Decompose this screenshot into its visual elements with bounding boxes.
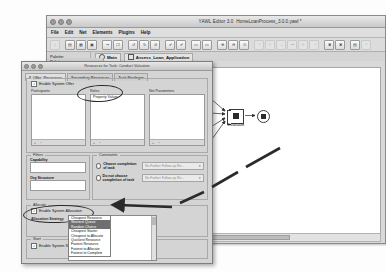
align-left-icon[interactable]: ⊢: [287, 40, 297, 50]
radio-icon: [96, 163, 101, 169]
save-icon[interactable]: ▦: [76, 40, 86, 50]
chevron-down-icon: ▾: [199, 164, 201, 168]
start-group-label: Start: [31, 237, 43, 241]
do-not-choose-completion-label: Do not choose completion of task: [103, 174, 139, 182]
remove-icon[interactable]: −: [40, 141, 42, 145]
toolbar-separator: [320, 41, 323, 49]
toolbar-separator: [124, 41, 127, 49]
zoom-reset-icon[interactable]: ⊙: [239, 40, 249, 50]
radio-icon: [96, 175, 101, 181]
offer-group-label: Offer: [31, 76, 43, 80]
align-middle-icon[interactable]: ┼: [265, 40, 275, 50]
zoom-out-icon[interactable]: ⊖: [228, 40, 238, 50]
decompose-icon[interactable]: ✖: [324, 40, 334, 50]
align-right-icon[interactable]: ⊣: [309, 40, 319, 50]
toolbar-separator: [213, 41, 216, 49]
redo-icon[interactable]: ↻: [139, 40, 149, 50]
editor-title-bar: YAWL Editor 3.0 HomeLoanProcess_3.0.0.ya…: [47, 16, 385, 28]
choose-completion-radio[interactable]: Choose completion of task: [96, 162, 139, 170]
menu-help[interactable]: Help: [141, 30, 151, 35]
menu-plugins[interactable]: Plugins: [119, 30, 135, 35]
copy-icon[interactable]: ❐: [113, 40, 123, 50]
toolbar-separator: [187, 41, 190, 49]
scrollbar-thumb[interactable]: [152, 217, 156, 225]
new-net-icon[interactable]: ▭: [191, 40, 201, 50]
choose-completion-combo[interactable]: No Further Follow-up Re... ▾: [142, 162, 204, 170]
participants-list[interactable]: + −: [31, 94, 86, 146]
combo-value: No Further Follow-up Re...: [145, 164, 184, 168]
add-icon[interactable]: +: [152, 141, 154, 145]
add-icon[interactable]: +: [93, 141, 95, 145]
save-as-icon[interactable]: ▣: [87, 40, 97, 50]
new-subnet-icon[interactable]: ▭: [202, 40, 212, 50]
net-parameters-list-footer: + −: [150, 139, 204, 145]
help-icon[interactable]: ?: [361, 40, 371, 50]
enable-system-offer-checkbox[interactable]: ✓ Enable System Offer: [31, 81, 74, 87]
net-parameters-label: Net Parameters: [149, 89, 205, 93]
filters-group: Filters Capability Org Structure: [26, 155, 90, 200]
editor-title: YAWL Editor 3.0: [47, 19, 385, 24]
align-top-icon[interactable]: ⊤: [254, 40, 264, 50]
remove-icon[interactable]: −: [99, 141, 101, 145]
delete-icon[interactable]: ⊘: [150, 40, 160, 50]
dropdown-option-8[interactable]: Fastest to Complete: [69, 251, 110, 255]
toolbar-separator: [346, 41, 349, 49]
new-file-icon[interactable]: ▯: [50, 40, 60, 50]
tool-bar: ▯ ▤ ▦ ▣ ✂ ❐ ↺ ↻ ⊘ ✔ ✔ ▭ ▭ ⊕ ⊖ ⊙ ⊤ ┼ ⊥: [47, 38, 385, 52]
cut-icon[interactable]: ✂: [102, 40, 112, 50]
remove-icon[interactable]: −: [158, 141, 160, 145]
screenshot-root: YAWL Editor 3.0 HomeLoanProcess_3.0.0.ya…: [0, 0, 386, 272]
end-square-icon: [261, 114, 266, 119]
add-icon[interactable]: +: [34, 141, 36, 145]
tab-assess-label: Assess_Loan_Application: [136, 55, 190, 60]
analyse-icon[interactable]: ✔: [176, 40, 186, 50]
net-sub-icon: [128, 54, 134, 60]
do-not-choose-completion-radio[interactable]: Do not choose completion of task: [96, 174, 139, 182]
task-label-evaluate: Evaluate: [218, 123, 254, 128]
toolbar-separator: [250, 41, 253, 49]
dialog-title-bar: Resources for Task: Conduct Valuation: [22, 62, 212, 71]
constraints-group: Constraints Choose completion of task No…: [92, 155, 208, 200]
org-structure-field[interactable]: [30, 180, 86, 191]
toolbar-separator: [161, 41, 164, 49]
combo-value: No Further Follow-up Re...: [145, 176, 184, 180]
toolbar-separator: [98, 41, 101, 49]
print-icon[interactable]: ▤: [350, 40, 360, 50]
do-not-choose-completion-combo[interactable]: No Further Follow-up Re... ▾: [142, 174, 204, 182]
capability-field[interactable]: [30, 162, 86, 173]
menu-bar: File Edit Net Elements Plugins Help: [47, 28, 385, 38]
roles-list-footer: + −: [91, 139, 144, 145]
checkbox-icon: ✓: [31, 81, 37, 87]
cancel-region-icon[interactable]: ✖: [335, 40, 345, 50]
menu-elements[interactable]: Elements: [93, 30, 113, 35]
align-bottom-icon[interactable]: ⊥: [276, 40, 286, 50]
menu-net[interactable]: Net: [79, 30, 86, 35]
toolbar-separator: [61, 41, 64, 49]
choose-completion-label: Choose completion of task: [103, 162, 139, 170]
enable-system-offer-label: Enable System Offer: [39, 82, 74, 86]
chevron-down-icon: ▾: [199, 176, 201, 180]
dialog-caption: Resources for Task: Conduct Valuation: [22, 64, 212, 68]
open-file-icon[interactable]: ▤: [65, 40, 75, 50]
menu-file[interactable]: File: [51, 30, 59, 35]
editor-file-title: HomeLoanProcess_3.0.0.yawl *: [236, 19, 301, 24]
tab-main-label: Main: [107, 55, 117, 60]
offer-column-net-parameters: Net Parameters + −: [149, 89, 205, 146]
zoom-in-icon[interactable]: ⊕: [217, 40, 227, 50]
net-tab-strip: Main Assess_Loan_Application: [90, 52, 385, 61]
dropdown-scrollbar[interactable]: [151, 216, 156, 260]
menu-edit[interactable]: Edit: [65, 30, 74, 35]
task-decorator-icon: [233, 113, 239, 119]
filters-group-label: Filters: [31, 153, 45, 157]
output-condition-node[interactable]: [257, 110, 270, 123]
tab-assess-loan-application[interactable]: Assess_Loan_Application: [124, 53, 194, 61]
undo-icon[interactable]: ↺: [128, 40, 138, 50]
validate-icon[interactable]: ✔: [165, 40, 175, 50]
align-center-icon[interactable]: ╪: [298, 40, 308, 50]
participants-list-footer: + −: [32, 139, 85, 145]
allocation-strategy-dropdown[interactable]: Cheapest Resource Shortest Queue Random …: [68, 215, 111, 257]
checkbox-icon: ✓: [31, 243, 37, 249]
net-parameters-list[interactable]: + −: [149, 94, 205, 146]
constraints-group-label: Constraints: [97, 153, 120, 157]
